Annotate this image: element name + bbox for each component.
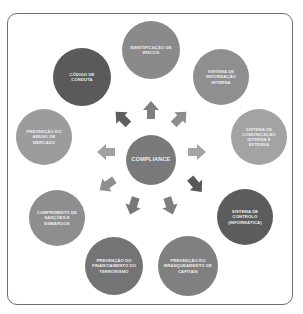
arrow-south-right-icon bbox=[160, 195, 181, 217]
node-label: CUMPRIMENTO DE SANÇÕES E EMBARGOS bbox=[35, 210, 79, 226]
node-prevencao-terrorismo: PREVENÇÃO DO FINANCIAMENTO DO TERRORISMO bbox=[85, 237, 143, 295]
arrow-northwest-icon bbox=[110, 106, 134, 130]
arrow-east-icon bbox=[188, 144, 206, 160]
node-sistema-comunicacao: SISTEMA DE COMUNICAÇÃO INTERNA E EXTERNA bbox=[231, 109, 287, 165]
node-label: PREVENÇÃO DO BRANQUEAMENTO DE CAPITAIS bbox=[164, 258, 212, 274]
node-label: IDENTIFICAÇÃO DE RISCOS bbox=[128, 45, 174, 55]
arrow-south-left-icon bbox=[123, 195, 144, 217]
center-node-compliance: COMPLIANCE bbox=[126, 135, 176, 185]
node-sistema-informacao-interna: SISTEMA DE INFORMAÇÃO INTERNA bbox=[193, 49, 249, 105]
arrow-north-icon bbox=[143, 101, 159, 119]
node-label: SISTEMA DE CONTROLO (INFORMÁTICA) bbox=[223, 209, 267, 225]
node-prevencao-abuso-mercado: PREVENÇÃO DO ABUSO DE MERCADO bbox=[16, 109, 72, 165]
arrow-west-icon bbox=[97, 144, 115, 160]
node-label: SISTEMA DE COMUNICAÇÃO INTERNA E EXTERNA bbox=[237, 127, 281, 148]
arrow-southeast-icon bbox=[184, 173, 208, 197]
node-prevencao-branqueamento: PREVENÇÃO DO BRANQUEAMENTO DE CAPITAIS bbox=[158, 236, 218, 296]
arrow-northeast-icon bbox=[168, 106, 192, 130]
node-identificacao-riscos: IDENTIFICAÇÃO DE RISCOS bbox=[122, 21, 180, 79]
arrow-southwest-icon bbox=[95, 173, 119, 196]
node-sistema-controlo: SISTEMA DE CONTROLO (INFORMÁTICA) bbox=[217, 189, 273, 245]
node-label: PREVENÇÃO DO ABUSO DE MERCADO bbox=[22, 129, 66, 145]
node-label: PREVENÇÃO DO FINANCIAMENTO DO TERRORISMO bbox=[91, 258, 137, 274]
node-label: SISTEMA DE INFORMAÇÃO INTERNA bbox=[199, 69, 243, 85]
node-cumprimento-sancoes: CUMPRIMENTO DE SANÇÕES E EMBARGOS bbox=[29, 190, 85, 246]
node-label: CÓDIGO DE CONDUTA bbox=[59, 72, 105, 82]
center-label: COMPLIANCE bbox=[132, 157, 171, 162]
node-codigo-conduta: CÓDIGO DE CONDUTA bbox=[53, 48, 111, 106]
